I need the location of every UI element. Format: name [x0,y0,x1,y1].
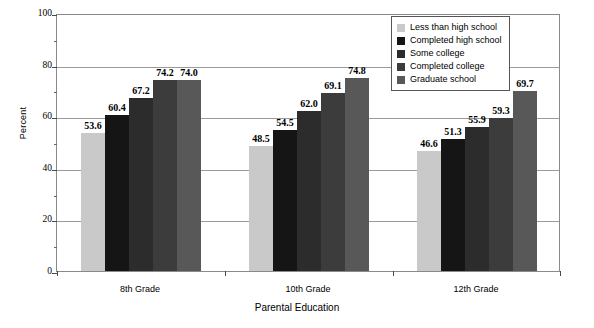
legend-label: Less than high school [410,23,497,32]
legend-label: Completed college [410,62,485,71]
y-axis-tick-labels: 100806040200 [14,0,52,328]
bar-chart: Percent 100806040200 53.660.467.274.274.… [0,0,594,328]
bar [81,133,105,271]
legend: Less than high schoolCompleted high scho… [391,16,510,91]
bar-value-label: 74.8 [342,66,372,76]
y-axis-tick-label: 0 [22,267,52,277]
bar-value-label: 62.0 [294,99,324,109]
x-axis-title: Parental Education [0,302,594,313]
bar-value-label: 60.4 [102,103,132,113]
y-axis-minor-tick [54,196,57,197]
legend-swatch-icon [397,63,405,71]
x-axis-tick-label: 12th Grade [392,284,560,294]
legend-swatch-icon [397,76,405,84]
bar [513,91,537,271]
x-axis-tick-label: 8th Grade [56,284,224,294]
x-axis-tick [393,271,394,276]
y-axis-minor-tick [54,144,57,145]
bar-value-label: 74.0 [174,68,204,78]
y-axis-major-tick [52,15,57,16]
bar-value-label: 69.7 [510,79,540,89]
bar [273,130,297,271]
legend-item: Completed college [397,60,502,73]
y-axis-tick-label: 60 [22,112,52,122]
bar-value-label: 51.3 [438,127,468,137]
legend-swatch-icon [397,50,405,58]
y-axis-tick-label: 100 [22,9,52,19]
bar [321,93,345,271]
legend-label: Graduate school [410,75,476,84]
bar [177,80,201,271]
bar [441,139,465,271]
bar [417,151,441,271]
bar-value-label: 55.9 [462,115,492,125]
legend-item: Graduate school [397,73,502,86]
bar-value-label: 53.6 [78,121,108,131]
bar-value-label: 48.5 [246,134,276,144]
legend-item: Completed high school [397,34,502,47]
bar [153,80,177,271]
y-axis-tick-label: 80 [22,61,52,71]
legend-item: Less than high school [397,21,502,34]
bar-value-label: 69.1 [318,81,348,91]
y-axis-tick-label: 40 [22,164,52,174]
x-axis-tick [225,271,226,276]
bar [249,146,273,271]
bar [489,118,513,271]
bar [465,127,489,271]
x-axis-tick-label: 10th Grade [224,284,392,294]
y-axis-tick-label: 20 [22,215,52,225]
legend-label: Completed high school [410,36,502,45]
x-axis-end-tick [560,271,561,276]
legend-swatch-icon [397,24,405,32]
bar-value-label: 67.2 [126,86,156,96]
bar [297,111,321,271]
bar-value-label: 59.3 [486,106,516,116]
y-axis-minor-tick [54,41,57,42]
bar-value-label: 46.6 [414,139,444,149]
bar [105,115,129,271]
bar [129,98,153,271]
legend-item: Some college [397,47,502,60]
bar-value-label: 54.5 [270,118,300,128]
legend-swatch-icon [397,37,405,45]
legend-label: Some college [410,49,465,58]
x-axis-end-tick [57,271,58,276]
bar [345,78,369,271]
y-axis-minor-tick [54,247,57,248]
y-axis-minor-tick [54,92,57,93]
